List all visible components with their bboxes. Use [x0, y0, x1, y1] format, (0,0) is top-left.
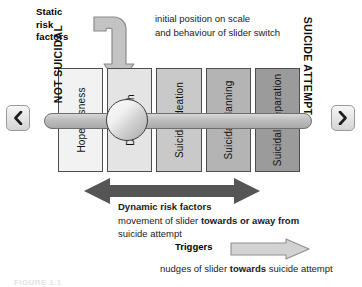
- static-risk-factors-label: Static risk factors: [36, 6, 98, 44]
- triggers-desc-pre: nudges of slider: [160, 263, 230, 274]
- previous-button[interactable]: [6, 105, 30, 131]
- chevron-right-icon: [337, 111, 349, 125]
- initial-position-note: initial position on scale and behaviour …: [155, 12, 355, 39]
- suicide-risk-slider-diagram: Static risk factors initial position on …: [0, 0, 362, 287]
- dynamic-risk-factors-line1-bold: towards or away from: [201, 215, 299, 226]
- triggers-desc-post: suicide attempt: [266, 263, 333, 274]
- dynamic-risk-factors-line2: suicide attempt: [118, 228, 182, 239]
- static-risk-factors-line-2: risk: [36, 19, 53, 30]
- next-button[interactable]: [331, 105, 355, 131]
- slider-track[interactable]: [44, 113, 312, 129]
- chevron-left-icon: [12, 111, 24, 125]
- axis-label-suicide-attempt: SUICIDE ATTEMPT: [302, 6, 314, 126]
- triggers-desc-bold: towards: [230, 263, 266, 274]
- triggers-arrow: [230, 238, 310, 264]
- figure-caption: FIGURE 1.1: [14, 278, 62, 287]
- axis-label-not-suicidal: NOT SUICIDAL: [52, 4, 64, 124]
- triggers-description: nudges of slider towards suicide attempt: [160, 263, 360, 274]
- dynamic-risk-factors-text: Dynamic risk factors movement of slider …: [118, 200, 358, 241]
- initial-position-note-line-1: initial position on scale: [155, 12, 355, 26]
- slider-knob-handle[interactable]: [106, 99, 148, 141]
- dynamic-risk-factors-line1-pre: movement of slider: [118, 215, 201, 226]
- triggers-label: Triggers: [175, 241, 213, 252]
- dynamic-risk-factors-heading: Dynamic risk factors: [118, 200, 358, 214]
- initial-position-note-line-2: and behaviour of slider switch: [155, 26, 355, 40]
